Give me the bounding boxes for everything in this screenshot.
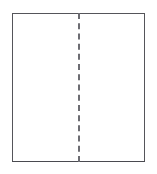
diagram-canvas <box>0 0 157 174</box>
figure-caption <box>0 0 1 1</box>
center-dashed-divider-line <box>78 13 80 162</box>
left-half-region-label <box>13 14 14 15</box>
right-half-region-label <box>13 14 14 15</box>
figure-title <box>0 0 1 1</box>
